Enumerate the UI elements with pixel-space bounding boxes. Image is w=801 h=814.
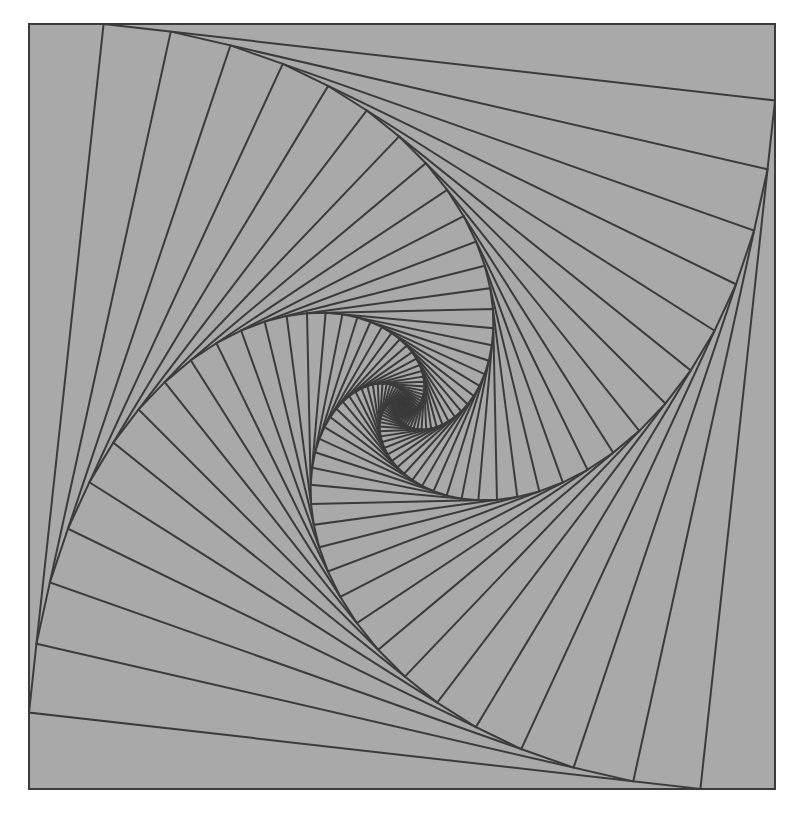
nested-square: [402, 406, 403, 407]
whirling-squares-canvas: [0, 0, 801, 814]
